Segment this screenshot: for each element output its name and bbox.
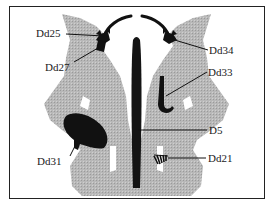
top-hooks <box>104 16 169 36</box>
label-dd27: Dd27 <box>45 62 69 73</box>
label-dd25: Dd25 <box>36 28 60 39</box>
label-dd33: Dd33 <box>208 67 232 78</box>
label-dd21: Dd21 <box>208 153 232 164</box>
label-d5: D5 <box>209 125 222 136</box>
center-axis-d5 <box>132 37 142 188</box>
label-dd34: Dd34 <box>209 45 233 56</box>
label-dd31: Dd31 <box>37 156 61 167</box>
